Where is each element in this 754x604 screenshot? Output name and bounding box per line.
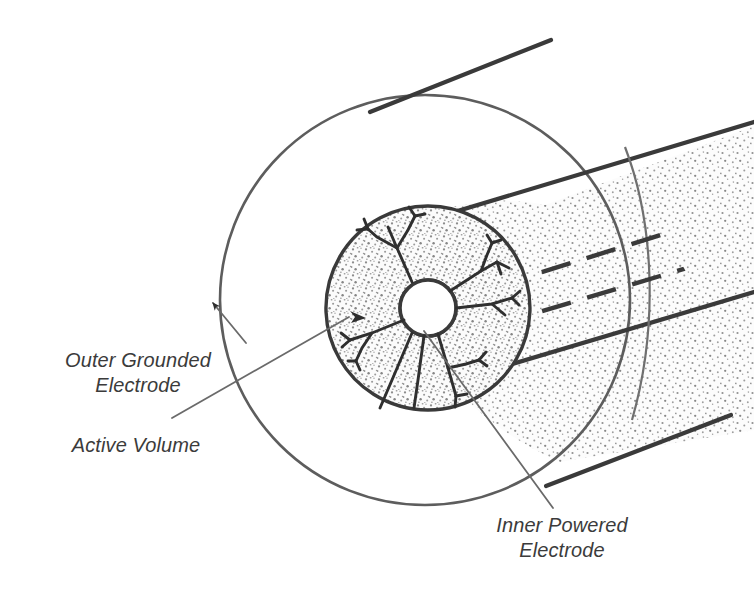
inner-powered-electrode-core [400,280,456,336]
label-active-volume: Active Volume [36,433,236,458]
label-inner-powered-electrode: Inner Powered Electrode [452,513,672,563]
label-outer-grounded-electrode: Outer Grounded Electrode [38,348,238,398]
